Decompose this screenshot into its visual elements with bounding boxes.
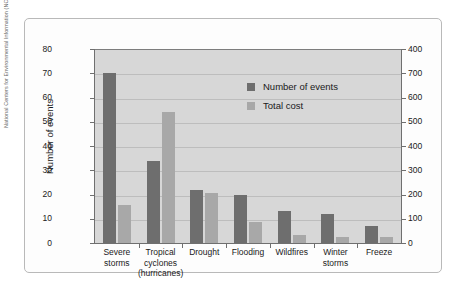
legend-item-events: Number of events xyxy=(247,77,338,96)
y-axis-right-tick-label: 100 xyxy=(408,214,422,223)
y-axis-left-tick xyxy=(90,195,94,196)
gridline xyxy=(95,220,401,221)
chart-figure: National Centers for Environmental Infor… xyxy=(0,0,451,292)
y-axis-left-tick xyxy=(90,243,94,244)
y-axis-right-tick xyxy=(402,49,406,50)
legend-item-cost: Total cost xyxy=(247,96,338,115)
y-axis-left-tick-label: 10 xyxy=(43,214,52,223)
x-axis-spine xyxy=(94,243,402,244)
gridline xyxy=(95,74,401,75)
y-axis-left-tick-label: 70 xyxy=(43,69,52,78)
bar-total-cost xyxy=(249,222,262,243)
bar-number-of-events xyxy=(103,73,116,243)
x-axis-category-label-line: storms xyxy=(306,258,366,269)
y-axis-left-tick-label: 20 xyxy=(43,190,52,199)
gridline xyxy=(95,147,401,148)
bar-total-cost xyxy=(118,205,131,243)
y-axis-left-tick xyxy=(90,98,94,99)
x-axis-category-label-line: (hurricanes) xyxy=(131,268,191,279)
bar-number-of-events xyxy=(365,226,378,243)
y-axis-left-tick-label: 40 xyxy=(43,142,52,151)
legend-label-events: Number of events xyxy=(263,81,338,92)
y-axis-right-tick xyxy=(402,122,406,123)
y-axis-left-tick xyxy=(90,219,94,220)
y-axis-right-tick-label: 500 xyxy=(408,117,422,126)
y-axis-right-tick xyxy=(402,73,406,74)
y-axis-right-tick xyxy=(402,195,406,196)
source-credit: National Centers for Environmental Infor… xyxy=(1,0,11,128)
y-axis-left-tick xyxy=(90,49,94,50)
y-axis-left-tick-label: 30 xyxy=(43,166,52,175)
y-axis-left-tick xyxy=(90,146,94,147)
y-axis-left-tick-label: 60 xyxy=(43,93,52,102)
bar-number-of-events xyxy=(278,211,291,243)
y-axis-right-tick-label: 600 xyxy=(408,93,422,102)
x-axis-category-label: Freeze xyxy=(349,247,409,258)
y-axis-right-tick-label: 200 xyxy=(408,190,422,199)
y-axis-right-tick xyxy=(402,219,406,220)
bar-total-cost xyxy=(380,237,393,243)
y-axis-left-tick-label: 0 xyxy=(47,239,52,248)
gridline xyxy=(95,196,401,197)
y-axis-right-tick-label: 400 xyxy=(408,45,422,54)
bar-total-cost xyxy=(336,237,349,243)
y-axis-right-tick xyxy=(402,98,406,99)
gridline xyxy=(95,171,401,172)
x-axis-category-label-line: cyclones xyxy=(131,258,191,269)
x-axis-category-label-line: Freeze xyxy=(349,247,409,258)
y-axis-right-tick xyxy=(402,243,406,244)
legend-swatch-cost xyxy=(247,102,255,110)
y-axis-left-tick xyxy=(90,122,94,123)
y-axis-right-tick-label: 300 xyxy=(408,166,422,175)
legend: Number of events Total cost xyxy=(247,77,338,115)
bar-total-cost xyxy=(293,235,306,243)
y-axis-left-tick-label: 50 xyxy=(43,117,52,126)
y-axis-left-tick xyxy=(90,73,94,74)
legend-swatch-events xyxy=(247,83,255,91)
y-axis-right-tick-label: 700 xyxy=(408,69,422,78)
y-axis-right-tick xyxy=(402,170,406,171)
bar-number-of-events xyxy=(190,190,203,243)
y-axis-left-tick-label: 80 xyxy=(43,45,52,54)
bar-number-of-events xyxy=(147,161,160,243)
bar-total-cost xyxy=(205,193,218,243)
bar-number-of-events xyxy=(321,214,334,243)
y-axis-right-tick xyxy=(402,146,406,147)
y-axis-right-tick-label: 400 xyxy=(408,142,422,151)
legend-label-cost: Total cost xyxy=(263,100,303,111)
bar-number-of-events xyxy=(234,195,247,244)
y-axis-left-tick xyxy=(90,170,94,171)
chart-panel: Number of events Total cost (billions of… xyxy=(24,18,442,273)
bar-total-cost xyxy=(162,112,175,243)
gridline xyxy=(95,123,401,124)
